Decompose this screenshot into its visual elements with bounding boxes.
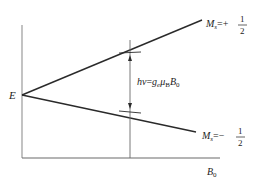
- zeeman-splitting-diagram: E hν=geμBB0 Ms=+ 1 2 Ms=− 1 2 B0: [0, 0, 255, 183]
- lower-energy-level-line: [22, 95, 196, 132]
- arrow-up-icon: [128, 55, 132, 61]
- svg-text:2: 2: [240, 26, 245, 36]
- origin-label: E: [8, 89, 16, 101]
- lower-level-label: Ms=− 1 2: [201, 126, 245, 148]
- svg-text:Ms=+: Ms=+: [205, 18, 229, 31]
- svg-text:2: 2: [238, 138, 243, 148]
- transition-label: hν=geμBB0: [137, 76, 180, 89]
- x-axis-label: B0: [207, 166, 217, 179]
- svg-text:1: 1: [238, 126, 243, 136]
- svg-text:Ms=−: Ms=−: [201, 130, 225, 143]
- arrow-down-icon: [128, 103, 132, 109]
- upper-level-label: Ms=+ 1 2: [205, 14, 247, 36]
- svg-text:1: 1: [240, 14, 245, 24]
- upper-intersection-tick: [119, 52, 141, 53]
